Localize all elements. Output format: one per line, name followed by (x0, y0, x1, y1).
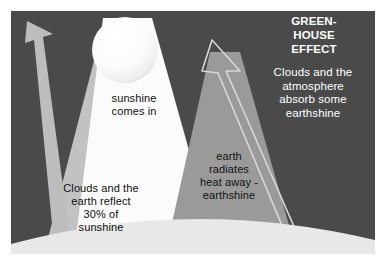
label-clouds-earth-reflect: Clouds and the earth reflect 30% of suns… (40, 182, 162, 234)
label-earth-radiates-heat: earth radiates heat away - earthshine (176, 150, 282, 202)
diagram-title: GREEN- HOUSE EFFECT (256, 14, 372, 56)
label-absorb-earthshine: Clouds and the atmosphere absorb some ea… (247, 66, 379, 120)
label-sunshine-comes-in: sunshine comes in (86, 92, 182, 118)
greenhouse-effect-figure: GREEN- HOUSE EFFECT Clouds and the atmos… (0, 0, 385, 266)
sun-sphere (92, 17, 158, 83)
